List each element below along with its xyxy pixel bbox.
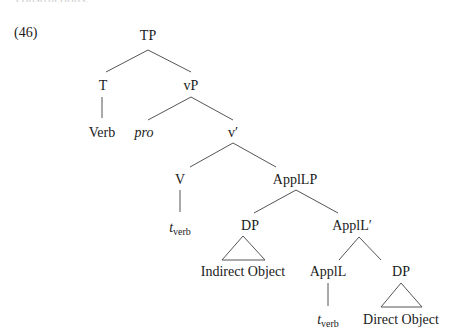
node-v-bar: v′ bbox=[228, 125, 238, 141]
trace-subscript: verb bbox=[173, 226, 191, 237]
node-pro: pro bbox=[135, 125, 154, 141]
node-indirect-object: Indirect Object bbox=[201, 264, 285, 280]
node-t-verb-trace-2: tverb bbox=[317, 312, 339, 332]
node-appll: ApplL bbox=[310, 264, 347, 280]
node-appllp: ApplLP bbox=[273, 172, 317, 188]
node-appll-bar: ApplL′ bbox=[332, 218, 372, 234]
node-vp: vP bbox=[184, 78, 199, 94]
node-verb: Verb bbox=[89, 125, 115, 141]
node-dp-indirect: DP bbox=[241, 218, 259, 234]
tree-branches bbox=[0, 0, 452, 335]
node-v: V bbox=[175, 172, 185, 188]
node-direct-object: Direct Object bbox=[363, 312, 439, 328]
node-tp: TP bbox=[140, 28, 156, 44]
pro-label: pro bbox=[135, 125, 154, 140]
node-t-verb-trace: tverb bbox=[169, 220, 191, 240]
node-dp-direct: DP bbox=[392, 264, 410, 280]
node-t: T bbox=[99, 78, 108, 94]
trace-subscript: verb bbox=[321, 318, 339, 329]
